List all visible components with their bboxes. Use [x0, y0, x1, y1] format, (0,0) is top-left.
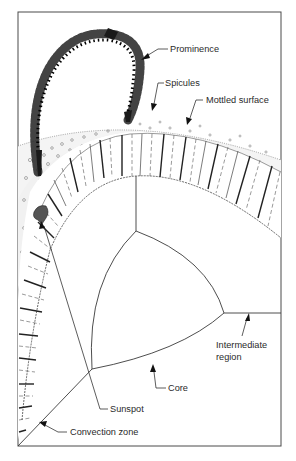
intermediate-region-label-line2: region: [216, 352, 242, 362]
sunspot-callout: Sunspot: [39, 221, 144, 414]
core-callout: Core: [150, 364, 188, 393]
mottled-surface-callout: Mottled surface: [186, 95, 269, 125]
convection-zone-label: Convection zone: [70, 427, 138, 437]
convection-zone-callout: Convection zone: [39, 421, 138, 437]
core-label: Core: [168, 383, 188, 393]
spicules-callout: Spicules: [151, 78, 200, 111]
sunspot-label: Sunspot: [110, 404, 144, 414]
intermediate-region-label-line1: Intermediate: [216, 340, 267, 350]
convection-zone-region: [18, 132, 281, 440]
intermediate-region-callout: Intermediate region: [216, 313, 267, 362]
sun-structure-diagram: Prominence Spicules Mottled surface Inte…: [0, 0, 296, 461]
prominence-callout: Prominence: [141, 44, 219, 60]
diagram-frame: [18, 12, 281, 446]
prominence-label: Prominence: [170, 44, 219, 54]
spicules-label: Spicules: [165, 78, 200, 88]
mottled-surface-label: Mottled surface: [206, 95, 269, 105]
